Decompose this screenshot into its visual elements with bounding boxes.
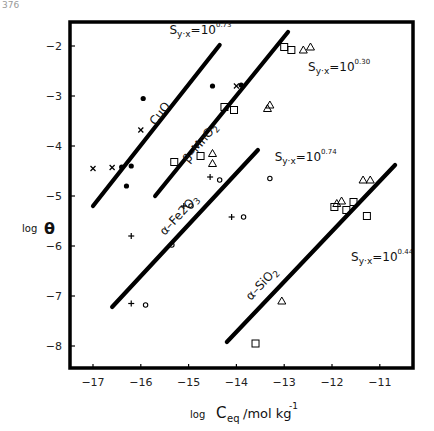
marker-dot (239, 82, 244, 87)
marker-square (231, 107, 238, 114)
fit-line--mno2 (155, 32, 288, 196)
marker-square (288, 47, 295, 54)
marker-square (363, 213, 370, 220)
x-tick-label: −15 (177, 376, 200, 389)
plot-frame (70, 22, 413, 368)
marker-triangle (306, 43, 314, 50)
marker-circle (143, 303, 147, 307)
x-tick-label: −11 (368, 376, 391, 389)
x-axis-label-sup: -1 (289, 401, 298, 411)
marker-x (91, 166, 96, 171)
y-tick-label: −8 (46, 340, 62, 353)
marker-triangle (359, 176, 367, 183)
marker-dot (119, 164, 124, 169)
marker-triangle (366, 176, 374, 183)
marker-dot (124, 183, 129, 188)
y-tick-label: −3 (46, 90, 62, 103)
y-tick-label: −5 (46, 190, 62, 203)
marker-plus (207, 174, 213, 180)
line-label: α–SiO2 (243, 264, 282, 304)
std-error-annotation: Sy·x=100.74 (275, 148, 338, 166)
marker-square (171, 159, 178, 166)
y-tick-label: −6 (46, 240, 62, 253)
marker-plus (128, 301, 134, 307)
marker-x (138, 128, 143, 133)
y-axis-label-theta: θ (44, 219, 55, 238)
marker-circle (241, 215, 245, 219)
std-error-annotation: Sy·x=100.30 (308, 58, 370, 76)
marker-circle (217, 178, 221, 182)
y-tick-label: −7 (46, 290, 62, 303)
x-axis-label-unit: /mol kg (243, 406, 292, 421)
marker-square (281, 44, 288, 51)
x-tick-label: −14 (225, 376, 248, 389)
y-axis-label-prefix: log (22, 223, 37, 234)
line-labels: CuOSy·x=100.73β–MnO2Sy·x=100.30α–Fe2O3Sy… (146, 21, 413, 305)
std-error-annotation: Sy·x=100.44 (351, 248, 414, 266)
marker-circle (268, 176, 272, 180)
marker-triangle (209, 160, 217, 167)
x-axis-label-main: C (216, 404, 226, 422)
x-tick-label: −12 (320, 376, 343, 389)
y-tick-label: −4 (46, 140, 62, 153)
x-axis-label: log C eq /mol kg -1 (190, 401, 298, 424)
marker-x (110, 165, 115, 170)
marker-plus (229, 214, 235, 220)
marker-triangle (299, 46, 307, 53)
marker-dot (210, 83, 215, 88)
x-tick-label: −16 (129, 376, 152, 389)
marker-triangle (278, 297, 286, 304)
scatter-chart: −17−16−15−14−13−12−11 −2−3−4−5−6−7−8 CuO… (0, 0, 434, 431)
marker-dot (141, 96, 146, 101)
fit-line--fe2o3 (112, 150, 258, 307)
x-axis-label-sub: eq (227, 413, 240, 424)
line-label: CuO (146, 99, 173, 128)
data-points (91, 43, 375, 347)
svg-text:α–SiO2: α–SiO2 (243, 264, 282, 304)
fit-line--sio2 (227, 165, 395, 342)
y-tick-label: −2 (46, 40, 62, 53)
marker-x (234, 84, 239, 89)
marker-dot (129, 163, 134, 168)
x-tick-label: −13 (273, 376, 296, 389)
marker-square (252, 340, 259, 347)
svg-text:CuO: CuO (146, 99, 173, 128)
marker-plus (128, 233, 134, 239)
marker-triangle (209, 150, 217, 157)
x-tick-label: −17 (81, 376, 104, 389)
x-axis-label-prefix: log (190, 409, 205, 420)
